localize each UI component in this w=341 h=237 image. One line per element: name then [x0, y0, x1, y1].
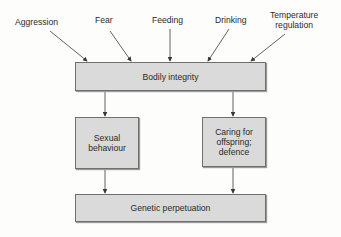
arrow-drinking — [208, 29, 229, 61]
diagram-canvas: Aggression Fear Feeding Drinking Tempera… — [0, 0, 341, 237]
label-temperature-regulation: Temperature regulation — [270, 10, 318, 30]
arrow-aggression — [50, 31, 87, 61]
node-bodily-integrity: Bodily integrity — [75, 62, 266, 91]
node-label: Sexual behaviour — [88, 133, 126, 153]
label-drinking: Drinking — [215, 15, 247, 25]
node-label: Caring for offspring; defence — [215, 127, 253, 157]
label-feeding: Feeding — [152, 15, 183, 25]
node-caring-for-offspring: Caring for offspring; defence — [202, 117, 266, 167]
node-genetic-perpetuation: Genetic perpetuation — [75, 194, 266, 222]
label-fear: Fear — [95, 15, 113, 25]
arrow-fear — [110, 31, 131, 61]
node-label: Genetic perpetuation — [131, 203, 211, 213]
node-sexual-behaviour: Sexual behaviour — [75, 117, 139, 169]
arrow-temperature — [251, 34, 285, 61]
label-aggression: Aggression — [15, 17, 58, 27]
node-label: Bodily integrity — [143, 72, 199, 82]
